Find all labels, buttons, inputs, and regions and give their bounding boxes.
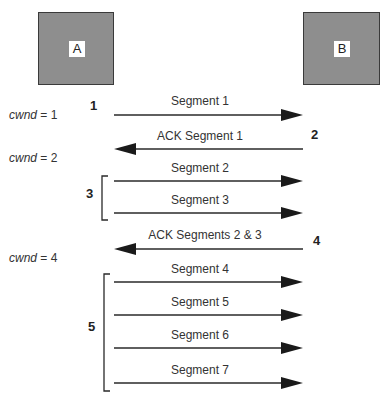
arrow-segment-7 [114, 377, 303, 389]
arrow-segment-2 [114, 175, 303, 187]
bracket-step-3 [102, 176, 108, 220]
arrow-ack-2-3 [114, 243, 303, 255]
arrow-segment-3 [114, 207, 303, 219]
arrow-segment-4 [114, 276, 303, 288]
sequence-arrows [0, 0, 389, 404]
arrow-segment-6 [114, 342, 303, 354]
arrow-segment-5 [114, 309, 303, 321]
bracket-step-5 [104, 274, 110, 391]
arrow-segment-1 [114, 109, 303, 121]
arrow-ack-1 [114, 143, 303, 155]
